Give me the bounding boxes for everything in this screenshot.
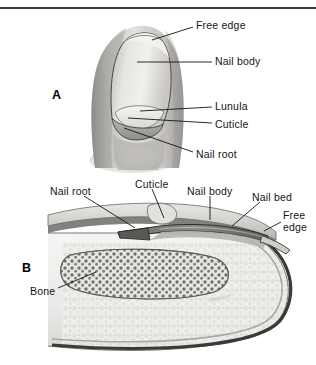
label-a-nail-root: Nail root [196, 149, 237, 161]
panel-a-letter: A [52, 88, 61, 102]
label-b-cuticle: Cuticle [135, 179, 169, 191]
panel-b-illustration [40, 203, 310, 358]
label-a-free-edge: Free edge [196, 20, 246, 32]
nail-root-section [118, 228, 150, 240]
panel-b-letter: B [22, 261, 31, 275]
label-a-cuticle: Cuticle [215, 119, 249, 131]
label-a-lunula: Lunula [215, 101, 248, 113]
label-b-nail-root: Nail root [50, 186, 91, 198]
label-b-nail-bed: Nail bed [252, 192, 292, 204]
label-a-nail-body: Nail body [215, 56, 261, 68]
label-b-nail-body: Nail body [187, 186, 233, 198]
nail-anatomy-figure: A Free edge Nail body Lunula Cuticle Nai… [0, 0, 316, 365]
label-b-free-edge: Free edge [283, 210, 307, 233]
panel-a-illustration [89, 26, 184, 173]
label-b-bone: Bone [30, 286, 55, 298]
top-rule [0, 7, 316, 9]
